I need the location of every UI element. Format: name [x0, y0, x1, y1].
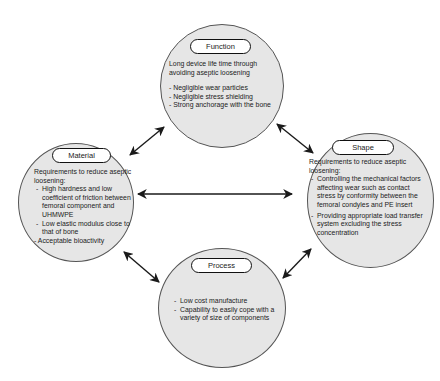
- material-intro: Requirements to reduce aseptic loosening…: [34, 168, 134, 185]
- function-item: Negligible wear particles: [169, 84, 281, 93]
- arrow-material-function: [130, 127, 164, 155]
- material-extra: - Acceptable bioactivity: [34, 237, 134, 246]
- process-item: Capability to easily cope with a variety…: [172, 306, 282, 323]
- material-item: High hardness and low coefficient of fri…: [34, 185, 134, 219]
- shape-title: Shape: [332, 140, 394, 155]
- arrow-process-shape: [283, 249, 311, 278]
- shape-text: Requirements to reduce aseptic loosening…: [309, 158, 427, 237]
- shape-item: Providing appropriate load transfer syst…: [309, 212, 427, 238]
- process-title: Process: [191, 258, 252, 273]
- process-item: Low cost manufacture: [172, 297, 282, 306]
- function-item: Negligible stress shielding: [169, 93, 281, 102]
- arrow-function-shape: [277, 124, 313, 153]
- function-item: Strong anchorage with the bone: [169, 101, 281, 110]
- material-title: Material: [52, 148, 111, 163]
- function-text: Long device life time through avoiding a…: [169, 60, 281, 110]
- function-intro: Long device life time through avoiding a…: [169, 60, 281, 77]
- material-text: Requirements to reduce aseptic loosening…: [34, 168, 134, 245]
- arrow-material-process: [124, 252, 159, 282]
- shape-intro: Requirements to reduce aseptic loosening…: [309, 158, 427, 175]
- shape-item: Controlling the mechanical factors affec…: [309, 175, 427, 209]
- process-text: Low cost manufacture Capability to easil…: [172, 297, 282, 323]
- function-title: Function: [190, 39, 251, 54]
- material-item: Low elastic modulus close to that of bon…: [34, 220, 134, 237]
